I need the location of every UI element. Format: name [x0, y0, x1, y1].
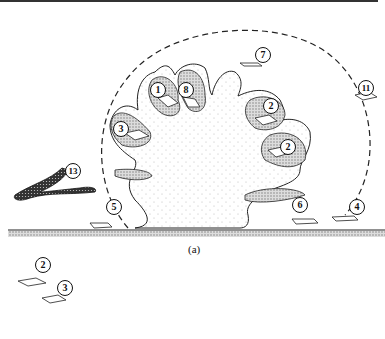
label-2c: 2 [35, 257, 51, 273]
label-11: 11 [358, 80, 374, 96]
label-3b: 3 [57, 280, 73, 296]
label-6: 6 [292, 197, 308, 213]
figure-caption: (a) [188, 243, 200, 255]
label-8: 8 [178, 82, 194, 98]
label-7: 7 [255, 47, 271, 63]
sand-substrate [8, 231, 385, 237]
label-2b: 2 [280, 139, 296, 155]
label-4: 4 [349, 199, 365, 215]
label-1: 1 [150, 82, 166, 98]
moray-eel [14, 168, 95, 200]
label-2a: 2 [263, 98, 279, 114]
label-5: 5 [106, 199, 122, 215]
label-3a: 3 [113, 121, 129, 137]
label-13: 13 [65, 163, 81, 179]
